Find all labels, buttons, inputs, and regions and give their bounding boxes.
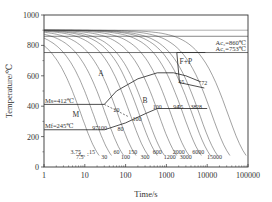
y-tick-label: 400: [27, 102, 39, 111]
y-tick-label: 200: [27, 133, 39, 142]
y-axis-title: Temperature/℃: [4, 64, 14, 119]
x-tick-label: 100000: [236, 171, 260, 180]
t85-label: 6000: [192, 149, 204, 155]
t85-label: 100: [121, 154, 130, 160]
y-axis: 02004006008001000: [23, 11, 44, 172]
t85-label: 15000: [207, 154, 222, 160]
x-tick-label: 1: [42, 171, 46, 180]
y-tick-label: 1000: [23, 11, 39, 20]
y-tick-label: 800: [27, 41, 39, 50]
critical-temp-label: Mf=245℃: [45, 122, 74, 129]
t85-label: 1200: [164, 154, 176, 160]
hardness-label: 80: [118, 126, 124, 132]
critical-temp-label: Ms=412℃: [45, 97, 74, 104]
hardness-label: 28: [196, 104, 202, 110]
cooling-curve: [44, 32, 136, 155]
hardness-label: 100: [132, 116, 141, 122]
region-label: A: [98, 69, 104, 78]
region-label: M: [72, 110, 79, 119]
hardness-label: 100: [98, 125, 107, 131]
cooling-curve: [44, 30, 201, 155]
t85-label: 15: [89, 149, 95, 155]
y-tick-label: 600: [27, 72, 39, 81]
x-tick-label: 10: [81, 171, 89, 180]
t85-label: 60: [114, 149, 120, 155]
x-axis: 110100100010000100000: [42, 164, 260, 180]
t85-label: 3000: [180, 154, 192, 160]
t85-prefix: t₈₅ :: [79, 150, 89, 157]
x-tick-label: 10000: [197, 171, 217, 180]
x-tick-label: 1000: [158, 171, 174, 180]
critical-temp-label: Ac₁=753℃: [215, 45, 246, 52]
bainite-start-curve: [104, 73, 201, 105]
x-tick-label: 100: [120, 171, 132, 180]
t85-label: 30: [101, 154, 107, 160]
hardness-label: 20: [114, 107, 120, 113]
cooling-curve: [44, 31, 148, 155]
annotations: ABMF+P9710080201001009455382845723.75156…: [70, 57, 221, 160]
hardness-label: 45: [178, 79, 184, 85]
plot-frame: [44, 15, 248, 167]
cooling-curve: [44, 30, 177, 155]
cct-diagram: Ac₃=860℃Ac₁=753℃Ms=412℃Mf=245℃ 110100100…: [0, 0, 272, 202]
region-label: F+P: [180, 57, 193, 66]
region-label: B: [143, 96, 148, 105]
x-axis-title: Time/s: [134, 189, 157, 199]
cooling-curve: [44, 31, 165, 156]
hardness-label: 72: [201, 80, 207, 86]
hardness-label: 55: [177, 104, 183, 110]
hardness-label: 100: [153, 104, 162, 110]
cooling-curve: [44, 30, 230, 155]
y-tick-label: 0: [35, 163, 39, 172]
t85-label: 300: [141, 154, 150, 160]
cooling-curve: [44, 30, 210, 155]
t85-label: 600: [153, 149, 162, 155]
cooling-curve: [44, 31, 157, 156]
